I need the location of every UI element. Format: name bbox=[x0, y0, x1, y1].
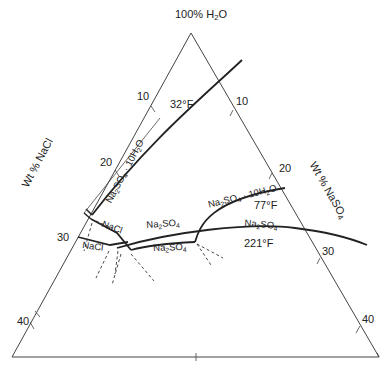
fl-sub: 4 bbox=[183, 246, 187, 253]
field-label-nacl-lower: NaCl bbox=[82, 240, 104, 252]
fl-text: Na bbox=[207, 196, 221, 210]
apex-label: 100% H2O bbox=[175, 9, 227, 22]
fl-sub: 4 bbox=[274, 225, 278, 232]
field-label-na2so4-upper: Na2SO4 bbox=[146, 218, 180, 232]
field-label-na2so4-lower: Na2SO4 bbox=[153, 242, 187, 255]
fl-text: Na bbox=[146, 218, 159, 230]
fl-text: SO bbox=[169, 241, 183, 252]
isotherm-32f: 32°F bbox=[170, 99, 193, 110]
fl-text: SO bbox=[162, 217, 176, 229]
apex-label-text: 100% H bbox=[175, 8, 214, 20]
right-tick-10: 10 bbox=[236, 96, 248, 107]
isotherm-77f: 77°F bbox=[254, 200, 277, 211]
fl-text: SO bbox=[222, 192, 238, 206]
left-tick-10: 10 bbox=[137, 91, 149, 102]
right-tick-30: 30 bbox=[322, 246, 334, 257]
fl-text: Na bbox=[153, 242, 166, 253]
left-tick-40: 40 bbox=[17, 316, 29, 327]
apex-label-post: O bbox=[218, 8, 227, 20]
fl-sub: 4 bbox=[176, 222, 180, 229]
isotherm-221f: 221°F bbox=[244, 238, 273, 249]
left-tick-20: 20 bbox=[100, 157, 112, 168]
left-tick-30: 30 bbox=[57, 232, 69, 243]
right-tick-40: 40 bbox=[362, 314, 374, 325]
fl-text: SO bbox=[260, 218, 275, 230]
right-tick-20: 20 bbox=[279, 163, 291, 174]
